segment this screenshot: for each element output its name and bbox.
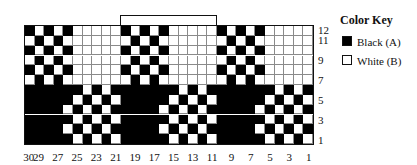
chart-cell [275, 65, 285, 75]
chart-cell [265, 134, 275, 144]
chart-cell [25, 85, 35, 95]
chart-cell [294, 46, 304, 56]
chart-cell [102, 36, 112, 46]
chart-cell [227, 134, 237, 144]
chart-cell [131, 65, 141, 75]
chart-cell [140, 65, 150, 75]
chart-cell [131, 124, 141, 134]
chart-cell [102, 134, 112, 144]
chart-cell [179, 56, 189, 66]
chart-cell [303, 26, 313, 36]
chart-cell [150, 105, 160, 115]
chart-cell [73, 115, 83, 125]
chart-cell [227, 36, 237, 46]
chart-cell [255, 36, 265, 46]
chart-cell [92, 26, 102, 36]
chart-cell [207, 65, 217, 75]
chart-cell [63, 105, 73, 115]
chart-cell [303, 75, 313, 85]
chart-cell [111, 95, 121, 105]
chart-cell [54, 36, 64, 46]
chart-cell [25, 65, 35, 75]
chart-cell [179, 26, 189, 36]
chart-cell [25, 124, 35, 134]
chart-cell [121, 124, 131, 134]
chart-cell [294, 36, 304, 46]
chart-cell [188, 124, 198, 134]
chart-cell [121, 36, 131, 46]
chart-cell [83, 36, 93, 46]
chart-cell [140, 134, 150, 144]
chart-cell [179, 105, 189, 115]
chart-cell [63, 46, 73, 56]
chart-cell [121, 65, 131, 75]
chart-cell [92, 124, 102, 134]
row-label: 7 [318, 75, 324, 86]
chart-cell [131, 56, 141, 66]
chart-cell [217, 95, 227, 105]
chart-cell [198, 124, 208, 134]
chart-cell [44, 65, 54, 75]
chart-cell [54, 65, 64, 75]
chart-cell [92, 65, 102, 75]
chart-cell [44, 115, 54, 125]
chart-cell [198, 26, 208, 36]
chart-cell [35, 75, 45, 85]
column-label: 29 [30, 152, 46, 163]
column-label: 11 [204, 152, 220, 163]
chart-cell [35, 105, 45, 115]
chart-cell [236, 85, 246, 95]
chart-cell [73, 85, 83, 95]
chart-cell [73, 124, 83, 134]
chart-cell [35, 65, 45, 75]
chart-cell [294, 134, 304, 144]
chart-cell [111, 46, 121, 56]
chart-cell [140, 85, 150, 95]
chart-cell [303, 46, 313, 56]
chart-cell [150, 46, 160, 56]
chart-cell [284, 85, 294, 95]
chart-cell [25, 26, 35, 36]
chart-cell [236, 65, 246, 75]
chart-cell [73, 26, 83, 36]
chart-cell [303, 85, 313, 95]
row-label: 9 [318, 55, 324, 66]
chart-cell [255, 105, 265, 115]
chart-cell [179, 36, 189, 46]
chart-cell [131, 95, 141, 105]
chart-cell [92, 95, 102, 105]
chart-cell [73, 65, 83, 75]
chart-cell [35, 85, 45, 95]
chart-cell [159, 36, 169, 46]
chart-cell [246, 115, 256, 125]
chart-cell [198, 85, 208, 95]
chart-cell [217, 46, 227, 56]
chart-cell [54, 85, 64, 95]
chart-cell [236, 124, 246, 134]
chart-cell [265, 115, 275, 125]
chart-cell [83, 95, 93, 105]
chart-cell [73, 36, 83, 46]
chart-cell [207, 36, 217, 46]
chart-cell [63, 26, 73, 36]
column-label: 5 [262, 152, 278, 163]
chart-cell [275, 115, 285, 125]
chart-cell [236, 56, 246, 66]
chart-cell [159, 26, 169, 36]
chart-cell [54, 46, 64, 56]
chart-cell [121, 115, 131, 125]
chart-cell [207, 26, 217, 36]
chart-cell [111, 56, 121, 66]
column-label: 25 [69, 152, 85, 163]
chart-cell [54, 95, 64, 105]
chart-cell [265, 85, 275, 95]
chart-cell [44, 26, 54, 36]
chart-cell [150, 85, 160, 95]
chart-cell [217, 65, 227, 75]
chart-cell [44, 85, 54, 95]
chart-cell [63, 115, 73, 125]
chart-cell [169, 26, 179, 36]
chart-cell [255, 85, 265, 95]
chart-cell [265, 105, 275, 115]
chart-cell [236, 46, 246, 56]
